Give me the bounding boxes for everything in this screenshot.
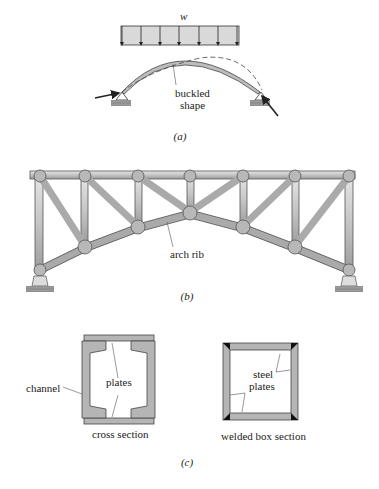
distributed-load bbox=[120, 26, 239, 46]
plates-label: plates bbox=[106, 376, 132, 388]
arch-rib-label: arch rib bbox=[170, 248, 204, 260]
figure-b-truss bbox=[30, 170, 355, 276]
load-label: w bbox=[180, 10, 188, 22]
shape-label: shape bbox=[180, 99, 205, 111]
figure-canvas: w buckled shape bbox=[0, 0, 379, 489]
figure-a: w buckled shape bbox=[95, 10, 278, 143]
welded-box-label: welded box section bbox=[221, 430, 306, 442]
channel-label: channel bbox=[26, 382, 60, 394]
caption-c: (c) bbox=[181, 456, 194, 469]
cross-section-label: cross section bbox=[92, 428, 149, 440]
caption-b: (b) bbox=[181, 290, 194, 303]
caption-a: (a) bbox=[174, 130, 187, 143]
buckled-label: buckled bbox=[175, 87, 210, 99]
thrust-arrow-left bbox=[95, 93, 119, 98]
steel-plates-label: plates bbox=[249, 380, 275, 392]
truss-supports bbox=[26, 276, 363, 292]
right-support bbox=[250, 92, 270, 106]
steel-label: steel bbox=[253, 368, 273, 380]
